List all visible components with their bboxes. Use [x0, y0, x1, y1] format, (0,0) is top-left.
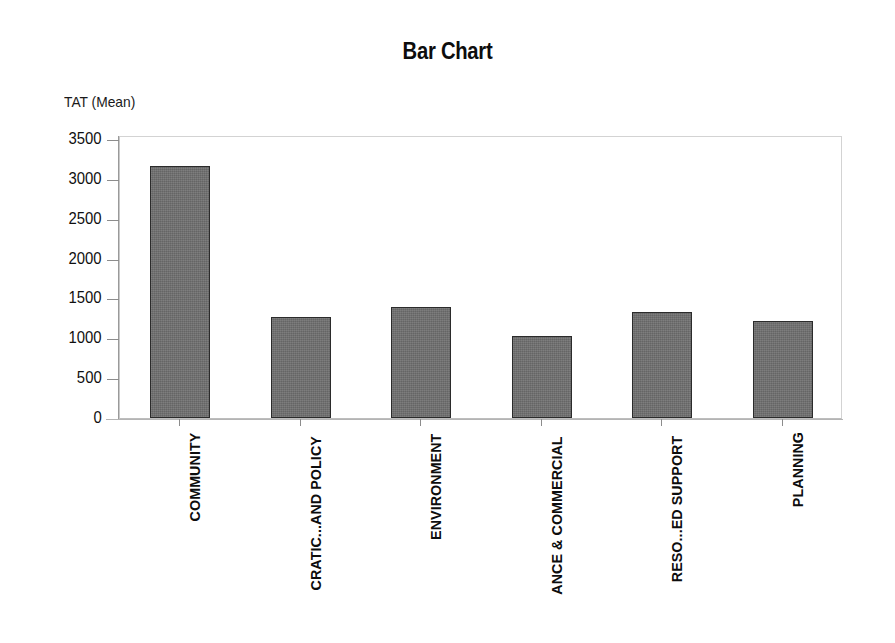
bar[interactable]: [753, 321, 813, 418]
y-axis-tick-label: 1500: [69, 289, 102, 307]
x-axis-category-label: RESO...ED SUPPORT: [668, 436, 685, 583]
x-axis-category-label: ANCE & COMMERCIAL: [548, 436, 565, 594]
y-axis-tick-mark: [107, 180, 119, 181]
x-axis-category-label: ENVIRONMENT: [427, 434, 444, 540]
chart-title: Bar Chart: [54, 38, 842, 65]
x-axis-tick-mark: [661, 419, 662, 426]
x-axis-category-label: PLANNING: [789, 432, 806, 507]
y-axis-tick-mark: [107, 140, 119, 141]
y-axis-title: TAT (Mean): [64, 93, 135, 110]
y-axis-tick-label: 2000: [69, 250, 102, 268]
plot-area: [119, 136, 842, 419]
bar[interactable]: [271, 317, 331, 418]
y-axis-tick-label: 2500: [69, 210, 102, 228]
y-axis-tick-mark: [107, 379, 119, 380]
bar[interactable]: [150, 166, 210, 418]
x-axis-tick-mark: [782, 419, 783, 426]
x-axis-line: [106, 419, 843, 420]
bar[interactable]: [391, 307, 451, 418]
y-axis-tick-label: 1000: [69, 329, 102, 347]
y-axis-tick-mark: [107, 220, 119, 221]
bar[interactable]: [512, 336, 572, 419]
y-axis-tick-label: 500: [77, 369, 102, 387]
x-axis-category-label: CRATIC...AND POLICY: [307, 436, 324, 590]
y-axis-tick-label: 3000: [69, 170, 102, 188]
x-axis-tick-mark: [420, 419, 421, 426]
bar-chart-figure: Bar Chart TAT (Mean) 3500300025002000150…: [0, 0, 895, 643]
x-axis-category-label: COMMUNITY: [186, 433, 203, 522]
y-axis-tick-label: 0: [94, 409, 102, 427]
y-axis-tick-mark: [107, 339, 119, 340]
x-axis-tick-mark: [300, 419, 301, 426]
bar[interactable]: [632, 312, 692, 418]
y-axis-tick-mark: [107, 299, 119, 300]
y-axis-tick-mark: [107, 260, 119, 261]
x-axis-tick-mark: [179, 419, 180, 426]
x-axis-tick-mark: [541, 419, 542, 426]
y-axis-tick-label: 3500: [69, 130, 102, 148]
